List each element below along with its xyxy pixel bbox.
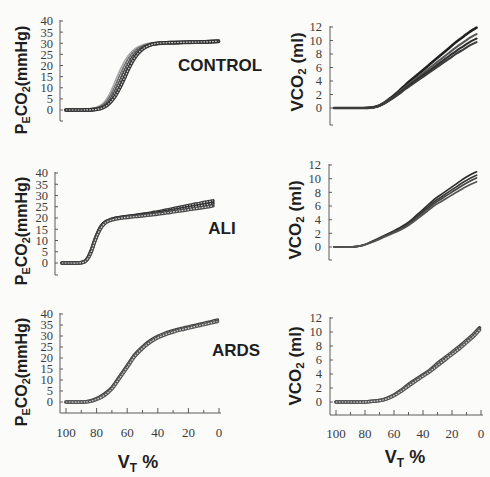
data-series bbox=[66, 41, 218, 110]
x-tick-label: 80 bbox=[90, 425, 103, 440]
panel-ards-vco2: 024681012100806040200 bbox=[310, 311, 485, 440]
title-part: CO bbox=[13, 243, 30, 267]
y-tick-label: 6 bbox=[316, 353, 322, 367]
y-tick-label: 4 bbox=[316, 367, 323, 381]
data-series bbox=[66, 320, 217, 402]
title-subscript: 2 bbox=[296, 68, 308, 74]
title-subscript: T bbox=[130, 461, 137, 475]
y-tick-label: 40 bbox=[36, 166, 49, 180]
series-band bbox=[66, 320, 217, 402]
x-tick-label: 40 bbox=[417, 426, 430, 441]
group-label-ards: ARDS bbox=[212, 342, 260, 359]
title-part: P bbox=[13, 416, 30, 427]
series-line bbox=[334, 175, 477, 247]
y-tick-label: 12 bbox=[310, 311, 323, 325]
y-tick-label: 0 bbox=[315, 240, 321, 254]
series-markers bbox=[66, 321, 217, 402]
title-subscript: 2 bbox=[20, 237, 32, 243]
y-tick-label: 4 bbox=[316, 74, 323, 88]
series-markers bbox=[66, 320, 217, 402]
series-markers bbox=[66, 41, 218, 110]
data-series bbox=[66, 41, 218, 110]
title-subscript: 2 bbox=[294, 362, 306, 368]
x-tick-label: 60 bbox=[121, 425, 134, 440]
title-part: CO bbox=[13, 384, 30, 408]
y-tick-label: 0 bbox=[316, 395, 322, 409]
data-series bbox=[336, 330, 480, 402]
x-tick-label: 20 bbox=[182, 425, 195, 440]
y-axis-title-peco2-ards: PECO2(mmHg) bbox=[14, 318, 30, 426]
series-markers bbox=[62, 203, 213, 263]
title-unit: (ml) bbox=[286, 180, 305, 216]
y-tick-label: 10 bbox=[309, 172, 322, 186]
title-unit: % bbox=[404, 447, 425, 467]
y-tick-label: 6 bbox=[316, 61, 322, 75]
series-line bbox=[334, 182, 477, 247]
series-markers bbox=[336, 328, 480, 402]
capnogram-figure: 0510152025303540 024681012 0510152025303… bbox=[0, 0, 490, 477]
series-band bbox=[66, 321, 217, 402]
title-subscript: T bbox=[397, 456, 404, 470]
title-subscript: 2 bbox=[294, 216, 306, 222]
series-band bbox=[62, 203, 213, 263]
title-subscript: 2 bbox=[20, 378, 32, 384]
series-band bbox=[336, 330, 480, 402]
y-tick-label: 6 bbox=[315, 199, 321, 213]
x-tick-label: 20 bbox=[446, 426, 459, 441]
data-series bbox=[334, 175, 477, 247]
data-series bbox=[336, 328, 480, 402]
y-tick-label: 40 bbox=[41, 14, 54, 28]
y-tick-label: 12 bbox=[310, 20, 323, 34]
group-label-ali: ALI bbox=[208, 220, 235, 237]
series-line bbox=[334, 28, 477, 108]
panel-control-vco2: 024681012 bbox=[310, 20, 477, 125]
title-unit: (ml) bbox=[288, 32, 307, 68]
data-series bbox=[66, 321, 217, 402]
y-tick-label: 12 bbox=[309, 158, 322, 172]
x-axis-title-right: VT % bbox=[385, 448, 425, 466]
panel-ards-peco2: 0510152025303540100806040200 bbox=[41, 307, 223, 439]
series-line bbox=[334, 172, 477, 247]
title-subscript: 2 bbox=[20, 86, 32, 92]
y-tick-label: 0 bbox=[316, 101, 322, 115]
y-tick-label: 8 bbox=[315, 186, 321, 200]
title-part: P bbox=[13, 275, 30, 286]
title-unit: (mmHg) bbox=[13, 177, 30, 237]
y-axis-title-vco2-ards: VCO2 (ml) bbox=[287, 326, 304, 405]
x-tick-label: 100 bbox=[326, 426, 346, 441]
y-axis-title-peco2-control: PECO2(mmHg) bbox=[14, 26, 30, 134]
series-band bbox=[66, 41, 218, 110]
y-tick-label: 10 bbox=[310, 34, 323, 48]
y-tick-label: 2 bbox=[316, 381, 322, 395]
series-line bbox=[334, 34, 477, 108]
x-tick-label: 100 bbox=[56, 425, 76, 440]
group-label-control: CONTROL bbox=[178, 57, 262, 74]
panel-ali-vco2: 024681012 bbox=[309, 158, 477, 260]
data-series bbox=[334, 172, 477, 247]
title-unit: (mmHg) bbox=[13, 318, 30, 378]
x-tick-label: 80 bbox=[359, 426, 372, 441]
title-part: VCO bbox=[288, 75, 307, 112]
y-tick-label: 40 bbox=[41, 307, 54, 321]
panel-ali-peco2: 0510152025303540 bbox=[36, 166, 213, 275]
title-part: VCO bbox=[286, 369, 305, 406]
data-series bbox=[334, 182, 477, 247]
y-tick-label: 4 bbox=[315, 213, 322, 227]
title-subscript: E bbox=[20, 408, 32, 415]
x-tick-label: 60 bbox=[388, 426, 401, 441]
x-axis-title-left: VT % bbox=[118, 453, 158, 471]
y-axis-title-peco2-ali: PECO2(mmHg) bbox=[14, 177, 30, 285]
x-tick-label: 0 bbox=[478, 426, 485, 441]
title-part: CO bbox=[13, 92, 30, 116]
y-tick-label: 10 bbox=[310, 325, 323, 339]
data-series bbox=[334, 34, 477, 108]
data-series bbox=[62, 203, 213, 263]
title-part: P bbox=[13, 124, 30, 135]
y-axis-title-vco2-control: VCO2 (ml) bbox=[289, 32, 306, 111]
title-unit: % bbox=[137, 452, 158, 472]
y-tick-label: 2 bbox=[316, 88, 322, 102]
y-tick-label: 8 bbox=[316, 339, 322, 353]
title-subscript: E bbox=[20, 116, 32, 123]
title-part: V bbox=[118, 452, 130, 472]
series-band bbox=[336, 328, 480, 402]
